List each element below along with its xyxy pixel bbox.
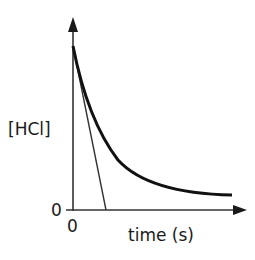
y-axis-arrow-icon bbox=[68, 17, 78, 32]
x-axis-label: time (s) bbox=[128, 227, 194, 244]
x-axis-arrow-icon bbox=[233, 205, 247, 215]
x-origin-tick-label: 0 bbox=[67, 218, 78, 235]
y-origin-tick-label: 0 bbox=[51, 202, 62, 219]
y-axis-label: [HCl] bbox=[8, 121, 51, 138]
concentration-curve bbox=[73, 46, 232, 195]
